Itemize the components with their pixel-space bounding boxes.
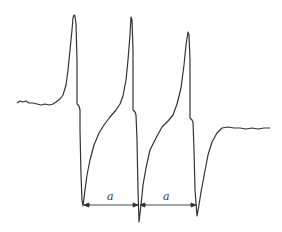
waveform-diagram <box>0 0 282 232</box>
interval-arrows <box>84 203 196 207</box>
waveform-trace <box>17 15 270 222</box>
interval-label-2: a <box>163 190 170 203</box>
interval-label-1: a <box>107 190 114 203</box>
